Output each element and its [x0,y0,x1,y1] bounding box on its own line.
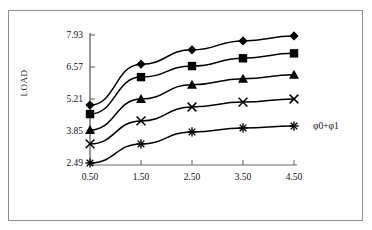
series-group [85,31,299,167]
data-point-5-2 [187,127,196,136]
data-point-5-4 [289,121,298,130]
y-tick-label-2: 5.21 [49,94,83,104]
data-point-1-4 [289,31,298,40]
x-tick-label-4: 4.50 [274,172,314,182]
y-tick-label-0: 7.93 [49,30,83,40]
y-tick-label-3: 3.85 [49,126,83,136]
data-point-2-2 [188,62,196,70]
plot-area: LOAD 7.93 6.57 5.21 3.85 2.49 0.50 1.50 … [0,0,372,230]
data-point-1-0 [85,101,94,110]
y-tick-label-4: 2.49 [49,158,83,168]
x-axis-title: φ0+φ1 [313,121,339,131]
x-tick-label-3: 3.50 [223,172,263,182]
data-point-5-1 [136,139,145,148]
data-point-5-0 [85,158,94,167]
data-point-2-0 [86,110,94,118]
x-tick-label-1: 1.50 [121,172,161,182]
y-tick-label-1: 6.57 [49,62,83,72]
series-line-4 [90,99,294,144]
data-point-2-1 [137,73,145,81]
x-tick-label-2: 2.50 [172,172,212,182]
y-axis-title: LOAD [19,53,29,113]
data-point-1-1 [136,60,145,69]
data-point-1-3 [238,36,247,45]
chart-page: LOAD 7.93 6.57 5.21 3.85 2.49 0.50 1.50 … [0,0,372,230]
data-point-5-3 [238,123,247,132]
data-point-2-3 [239,54,247,62]
x-tick-label-0: 0.50 [70,172,110,182]
data-point-2-4 [290,49,298,57]
data-point-1-2 [187,45,196,54]
